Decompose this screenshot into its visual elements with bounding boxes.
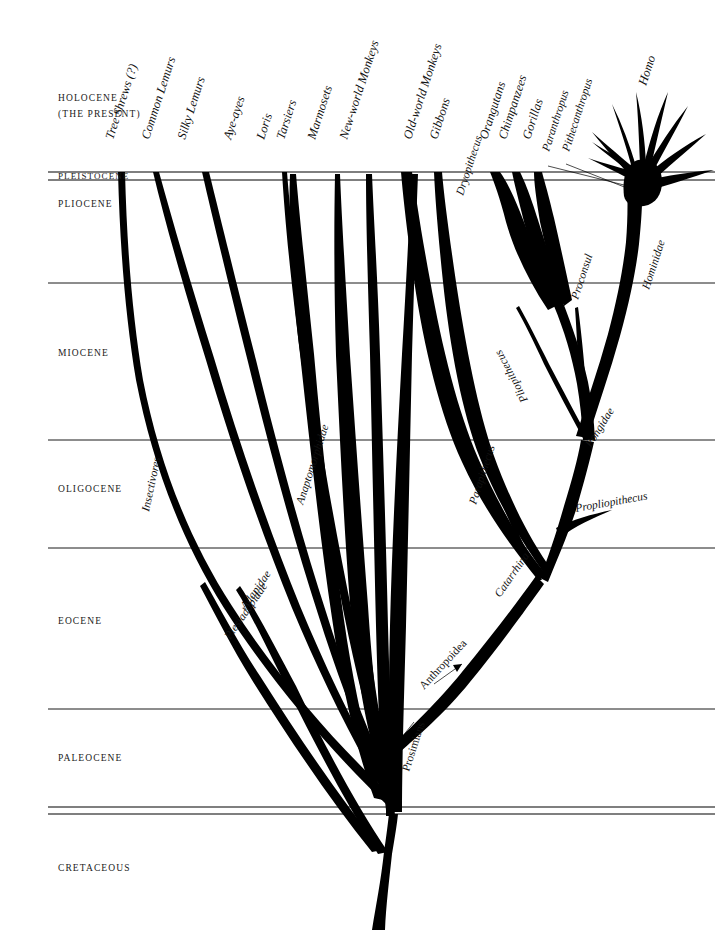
figure-background — [0, 0, 723, 939]
epoch-label-cretaceous: CRETACEOUS — [58, 863, 131, 873]
epoch-sublabel-holocene-present: (THE PRESENT) — [58, 109, 141, 120]
epoch-label-oligocene: OLIGOCENE — [58, 484, 122, 494]
epoch-label-paleocene: PALEOCENE — [58, 753, 122, 763]
homo-crown-hub — [624, 159, 662, 206]
phylogenetic-tree-canvas: HOLOCENE (THE PRESENT) PLEISTOCENE PLIOC… — [0, 0, 723, 939]
epoch-label-miocene: MIOCENE — [58, 348, 109, 358]
epoch-label-pleistocene: PLEISTOCENE — [58, 171, 129, 181]
epoch-label-eocene: EOCENE — [58, 616, 102, 626]
epoch-label-holocene: HOLOCENE — [58, 93, 118, 103]
epoch-label-pliocene: PLIOCENE — [58, 199, 113, 209]
primate-evolution-figure: HOLOCENE (THE PRESENT) PLEISTOCENE PLIOC… — [0, 0, 723, 939]
